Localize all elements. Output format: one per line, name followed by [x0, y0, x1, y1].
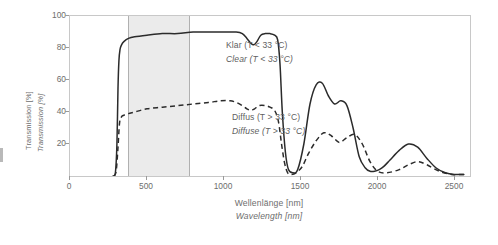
- legend-label-clear-en: Clear (T < 33 °C): [226, 54, 293, 64]
- x-tick-label-0: 0: [67, 181, 72, 191]
- x-tick-label-500: 500: [139, 181, 153, 191]
- x-axis-title-de: Wellenlänge [nm]: [235, 198, 304, 208]
- y-axis-title-de: Transmission [%]: [24, 91, 33, 150]
- x-tick-label-1500: 1500: [291, 181, 310, 191]
- y-tick-label-20: 20: [44, 139, 66, 147]
- x-tick-2500: [454, 176, 455, 180]
- x-tick-0: [69, 176, 70, 180]
- x-tick-label-2000: 2000: [368, 181, 387, 191]
- x-tick-500: [146, 176, 147, 180]
- legend-label-diffuse-de: Diffus (T > 33 °C): [232, 112, 300, 122]
- page-edge-artifact: [0, 148, 3, 162]
- y-tick-label-100: 100: [44, 11, 66, 19]
- y-tick-label-40: 40: [44, 107, 66, 115]
- legend-label-clear-de: Klar (T < 33 °C): [226, 40, 287, 50]
- x-tick-1500: [300, 176, 301, 180]
- x-tick-2000: [377, 176, 378, 180]
- x-axis-title-en: Wavelength [nm]: [236, 211, 303, 221]
- y-tick-label-60: 60: [44, 75, 66, 83]
- legend-label-diffuse-en: Diffuse (T > 33 °C): [232, 126, 305, 136]
- x-tick-label-2500: 2500: [445, 181, 464, 191]
- x-tick-1000: [223, 176, 224, 180]
- y-tick-label-80: 80: [44, 43, 66, 51]
- transmission-spectrum-chart: Transmission [%] Transmission [%] 100 80…: [0, 0, 498, 245]
- x-tick-label-1000: 1000: [214, 181, 233, 191]
